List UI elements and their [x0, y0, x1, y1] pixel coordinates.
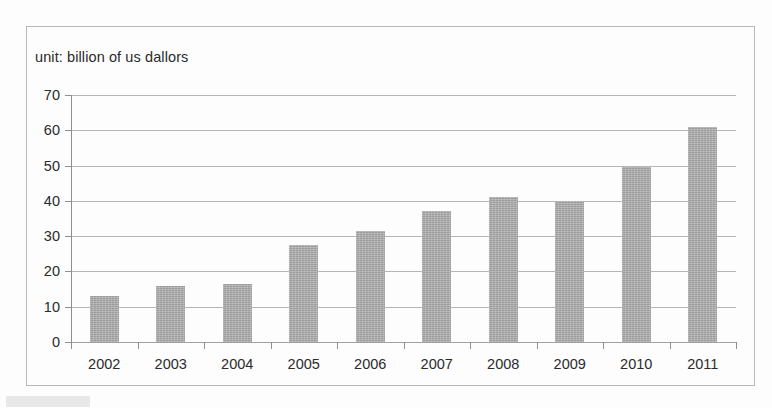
x-axis-label-2011: 2011: [687, 356, 718, 372]
bar-2006: [356, 231, 385, 342]
y-axis-tick: [65, 236, 72, 237]
x-axis-label-2002: 2002: [88, 356, 120, 372]
x-axis-tick: [71, 342, 72, 349]
y-axis-label: 20: [44, 263, 60, 279]
y-axis-label: 0: [52, 334, 60, 350]
x-axis-tick: [470, 342, 471, 349]
gridline: [71, 130, 736, 131]
x-axis-label-2005: 2005: [288, 356, 320, 372]
x-axis-tick: [204, 342, 205, 349]
y-axis-tick: [65, 201, 72, 202]
chart-frame: unit: billion of us dallors 010203040506…: [26, 26, 755, 386]
x-axis-label-2009: 2009: [554, 356, 586, 372]
y-axis-label: 60: [44, 122, 60, 138]
bar-2008: [489, 197, 518, 342]
bar-2011: [688, 127, 717, 342]
gridline: [71, 95, 736, 96]
y-axis-tick: [65, 271, 72, 272]
x-axis-tick: [537, 342, 538, 349]
x-axis-label-2010: 2010: [620, 356, 652, 372]
scan-artifact: [6, 396, 90, 407]
y-axis-line: [71, 95, 72, 342]
x-axis-label-2006: 2006: [354, 356, 386, 372]
y-axis-label: 50: [44, 158, 60, 174]
y-axis-tick: [65, 307, 72, 308]
x-axis-tick: [404, 342, 405, 349]
y-axis-label: 40: [44, 193, 60, 209]
bar-2007: [422, 211, 451, 342]
x-axis-label-2004: 2004: [221, 356, 253, 372]
bar-2009: [555, 201, 584, 342]
y-axis-label: 70: [44, 87, 60, 103]
plot-area: 010203040506070 200220032004200520062007…: [71, 95, 736, 342]
x-axis-tick: [138, 342, 139, 349]
x-axis-tick: [603, 342, 604, 349]
chart-unit-caption: unit: billion of us dallors: [35, 49, 188, 65]
bar-2010: [622, 167, 651, 342]
x-axis-label-2003: 2003: [155, 356, 187, 372]
x-axis-tick: [337, 342, 338, 349]
x-axis-tick: [736, 342, 737, 349]
y-axis-label: 30: [44, 228, 60, 244]
x-axis-tick: [271, 342, 272, 349]
y-axis-tick: [65, 130, 72, 131]
x-axis-label-2007: 2007: [421, 356, 453, 372]
y-axis-label: 10: [44, 299, 60, 315]
bar-2002: [90, 296, 119, 342]
x-axis-label-2008: 2008: [487, 356, 519, 372]
y-axis-tick: [65, 166, 72, 167]
bar-2003: [156, 286, 185, 342]
x-axis-tick: [670, 342, 671, 349]
scanned-page: unit: billion of us dallors 010203040506…: [0, 0, 772, 408]
y-axis-tick: [65, 95, 72, 96]
bar-2004: [223, 284, 252, 342]
bar-2005: [289, 245, 318, 342]
